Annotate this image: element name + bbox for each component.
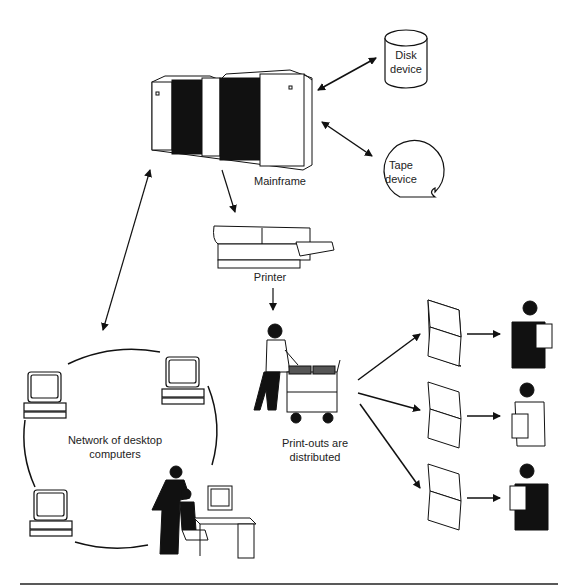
disk-device-label: Disk device: [385, 48, 427, 76]
mainframe-label: Mainframe: [240, 174, 320, 188]
cart-person-icon: [254, 324, 340, 423]
printout-icon: [428, 464, 461, 530]
diagram-canvas: [0, 0, 576, 588]
distribution-label-line2: distributed: [260, 450, 370, 464]
disk-label-line1: Disk: [385, 48, 427, 62]
printout-icon: [428, 382, 461, 448]
distribute-arrow-2: [358, 393, 420, 410]
printer-label: Printer: [240, 270, 300, 284]
recipient-man-icon: [512, 301, 552, 368]
desktop-computer-icon: [24, 372, 66, 418]
desktop-computer-icon: [30, 490, 72, 536]
mainframe-tape-arrow: [322, 122, 372, 156]
mainframe-printer-arrow: [222, 170, 235, 212]
mainframe-network-arrow: [103, 170, 150, 330]
desktop-computer-icon: [162, 357, 204, 404]
printer-icon: [214, 226, 335, 268]
network-label: Network of desktop computers: [55, 433, 175, 461]
workstation-people-icon: [152, 466, 256, 558]
network-label-line2: computers: [55, 447, 175, 461]
distribution-label-line1: Print-outs are: [260, 436, 370, 450]
recipient-woman-icon: [512, 383, 545, 446]
distribute-arrow-1: [358, 334, 420, 380]
network-label-line1: Network of desktop: [55, 433, 175, 447]
recipient-man-icon: [510, 464, 548, 530]
tape-device-label: Tape device: [376, 158, 426, 186]
tape-label-line1: Tape: [376, 158, 426, 172]
printout-icon: [428, 300, 461, 366]
tape-label-line2: device: [376, 172, 426, 186]
distribution-label: Print-outs are distributed: [260, 436, 370, 464]
mainframe-icon: [152, 70, 312, 170]
mainframe-disk-arrow: [318, 58, 376, 90]
disk-label-line2: device: [385, 62, 427, 76]
